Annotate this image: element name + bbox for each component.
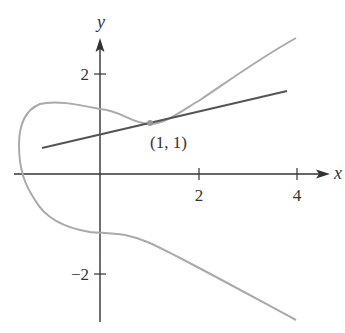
y-tick-label-2: 2 <box>81 65 90 84</box>
curve-series <box>19 38 296 320</box>
y-axis-label: y <box>95 12 105 32</box>
plot-area: 2 4 2 −2 x y (1, 1) <box>0 0 345 333</box>
chart-svg: 2 4 2 −2 x y (1, 1) <box>0 0 345 333</box>
point-label: (1, 1) <box>150 133 187 152</box>
x-tick-label-4: 4 <box>293 186 302 205</box>
point-marker <box>147 120 153 126</box>
x-axis-label: x <box>333 163 342 183</box>
y-tick-label-neg2: −2 <box>71 265 89 284</box>
x-tick-label-2: 2 <box>195 186 204 205</box>
